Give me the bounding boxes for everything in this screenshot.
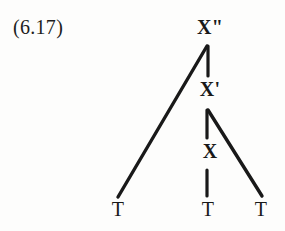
- terminal-label-left: T: [103, 199, 133, 219]
- branch-x-max-to-specifier: [118, 46, 207, 197]
- node-label-x-bar: X': [195, 79, 225, 99]
- terminal-label-right: T: [246, 199, 276, 219]
- node-label-x-zero: X: [195, 141, 225, 161]
- terminal-label-middle: T: [193, 199, 223, 219]
- tree-branches-svg: [0, 0, 285, 231]
- tree-diagram-figure: (6.17) X" X' X T T T: [0, 0, 285, 231]
- node-label-x-double-bar: X": [195, 17, 225, 37]
